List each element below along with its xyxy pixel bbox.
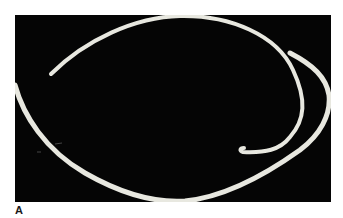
figure: A: [0, 0, 343, 218]
panel-label: A: [15, 204, 23, 216]
strands-graphic: [15, 15, 331, 202]
specimen-photo: [15, 15, 331, 202]
strand-outer-loop: [15, 53, 329, 201]
strand-inner-loop: [51, 16, 302, 152]
